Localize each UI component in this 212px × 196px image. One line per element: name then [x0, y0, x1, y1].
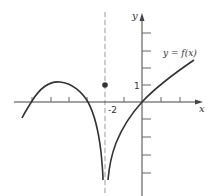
y-axis-arrow-icon — [140, 13, 145, 21]
function-graph: y x y = f(x) -2 1 — [0, 0, 212, 196]
x-ticks — [32, 97, 180, 102]
curve-label: y = f(x) — [162, 48, 197, 58]
curve-right-branch — [108, 60, 194, 180]
curve-left-branch — [22, 82, 103, 180]
y-tick-label-1: 1 — [134, 81, 140, 91]
x-tick-label-neg2: -2 — [108, 105, 117, 115]
isolated-point — [102, 82, 108, 88]
x-axis-label: x — [199, 103, 205, 114]
y-axis-label: y — [131, 10, 138, 21]
y-ticks — [142, 33, 151, 173]
